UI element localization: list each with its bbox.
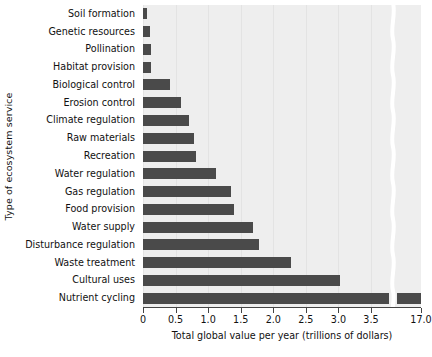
x-axis-tick [421,308,422,313]
y-axis-tick-label: Pollination [85,42,135,56]
y-axis-tick-label: Food provision [65,202,135,216]
bar [143,151,196,162]
bar [143,168,216,179]
bar [143,133,194,144]
x-axis-tick [176,308,177,313]
y-axis-tick-label: Waste treatment [54,256,135,270]
x-axis-tick [143,308,144,313]
x-axis-tick [306,308,307,313]
x-axis-tick-label: 1.5 [233,314,248,325]
bar [143,186,231,197]
x-axis-tick [273,308,274,313]
x-axis-tick-label: 2.0 [266,314,281,325]
y-axis-tick-label: Genetic resources [48,25,135,39]
x-axis-tick-label: 2.5 [298,314,313,325]
x-axis-tick [371,308,372,313]
y-axis-title: Type of ecosystem service [0,0,18,312]
y-axis-tick-label: Erosion control [63,96,135,110]
bar [143,79,170,90]
y-axis-tick-label: Cultural uses [72,273,135,287]
x-axis-tick-label: 3.5 [363,314,378,325]
bar [143,26,150,37]
x-axis-tick [338,308,339,313]
bar [143,204,234,215]
gridline [371,5,372,307]
y-axis-tick-label: Water regulation [55,167,135,181]
plot-area [143,5,421,307]
y-axis-tick-label: Habitat provision [53,60,135,74]
y-axis-tick-label: Recreation [84,149,135,163]
x-axis-tick-label: 17.0 [410,314,431,325]
y-axis-tick-label: Nutrient cycling [59,291,135,305]
y-axis-tick-label: Biological control [52,78,135,92]
bar [143,97,181,108]
axis-break-icon [387,5,399,307]
y-axis-tick-label: Gas regulation [65,185,135,199]
bar [143,275,340,286]
bar [143,8,147,19]
bar [143,44,151,55]
bar [397,293,421,304]
y-axis-tick-labels: Soil formationGenetic resourcesPollinati… [18,5,139,307]
x-axis-title: Total global value per year (trillions o… [143,330,421,341]
x-axis-line [143,307,421,308]
y-axis-tick-label: Raw materials [67,131,135,145]
y-axis-tick-label: Soil formation [68,7,135,21]
y-axis-tick-label: Water supply [72,220,135,234]
bar [143,222,253,233]
bar [143,257,291,268]
y-axis-tick-label: Disturbance regulation [25,238,135,252]
gridline [306,5,307,307]
bar [143,62,151,73]
x-axis-tick-label: 3.0 [331,314,346,325]
x-axis-tick-label: 1.0 [201,314,216,325]
gridline [338,5,339,307]
y-axis-tick-label: Climate regulation [46,113,135,127]
bar [143,115,189,126]
x-axis-tick [241,308,242,313]
x-axis-tick [208,308,209,313]
x-axis-tick-label: 0 [140,314,146,325]
bar [143,293,389,304]
y-axis-title-text: Type of ecosystem service [4,92,15,220]
x-axis-tick-label: 0.5 [168,314,183,325]
bar [143,239,259,250]
